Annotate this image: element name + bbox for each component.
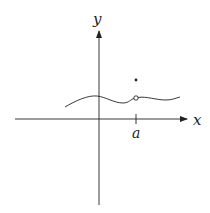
open-circle-hole [134, 96, 138, 100]
tick-label-a: a [132, 125, 140, 141]
function-curve [65, 96, 180, 107]
y-axis-label: y [92, 10, 102, 28]
x-axis-label: x [193, 111, 202, 129]
filled-point [135, 79, 138, 82]
graph-canvas: y x a [0, 0, 210, 213]
